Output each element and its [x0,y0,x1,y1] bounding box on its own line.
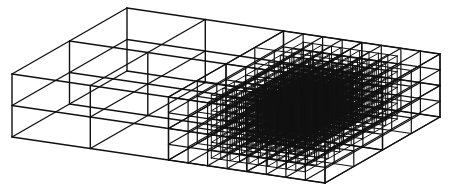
adaptive-mesh-wireframe [0,0,451,191]
mesh-diagram [0,0,451,191]
